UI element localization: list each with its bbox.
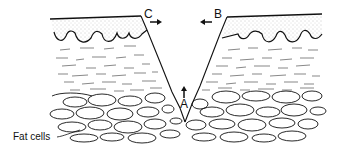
label-c: C	[144, 8, 153, 20]
right-epidermis	[222, 14, 322, 42]
label-b: B	[214, 8, 222, 20]
left-wound-edge	[141, 16, 185, 122]
right-tissue-block	[185, 14, 322, 122]
label-fat-cells: Fat cells	[13, 132, 50, 142]
fat-cells-leader-line	[57, 130, 80, 137]
arrow-b-left	[200, 19, 212, 25]
wound-cross-section-diagram	[0, 0, 352, 157]
right-wound-edge	[185, 17, 227, 122]
label-a: A	[180, 98, 188, 110]
